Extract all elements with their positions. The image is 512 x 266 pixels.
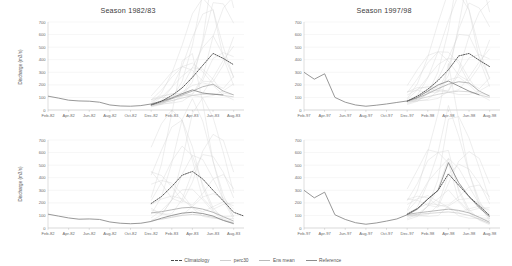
svg-text:Jun-97: Jun-97 bbox=[339, 113, 352, 118]
svg-text:0: 0 bbox=[299, 108, 302, 113]
panel-bottom-left: Discharge (m3/s) 0100200300400500600700F… bbox=[0, 134, 256, 246]
svg-text:0: 0 bbox=[299, 226, 302, 231]
plot-area: 0100200300400500600700Feb-97Apr-97Jun-97… bbox=[286, 136, 504, 248]
chart-title: Season 1982/83 bbox=[0, 6, 256, 15]
svg-text:Oct-97: Oct-97 bbox=[380, 231, 393, 236]
panel-top-left: Season 1982/83 Discharge (m3/s) 01002003… bbox=[0, 0, 256, 134]
svg-text:Jun-82: Jun-82 bbox=[83, 231, 96, 236]
svg-text:Aug-83: Aug-83 bbox=[227, 113, 241, 118]
svg-text:Aug-97: Aug-97 bbox=[359, 113, 373, 118]
legend-swatch-reference bbox=[306, 260, 317, 261]
svg-text:600: 600 bbox=[39, 32, 47, 37]
svg-text:Feb-97: Feb-97 bbox=[298, 231, 312, 236]
plot-area: 0100200300400500600700Feb-97Apr-97Jun-97… bbox=[286, 18, 504, 130]
svg-text:100: 100 bbox=[295, 213, 303, 218]
svg-text:400: 400 bbox=[295, 57, 303, 62]
svg-text:400: 400 bbox=[295, 175, 303, 180]
svg-text:Dec-97: Dec-97 bbox=[401, 231, 415, 236]
svg-text:700: 700 bbox=[295, 138, 303, 143]
svg-text:Feb-98: Feb-98 bbox=[421, 231, 435, 236]
svg-text:Jun-97: Jun-97 bbox=[339, 231, 352, 236]
svg-text:700: 700 bbox=[295, 20, 303, 25]
panel-bottom-right: 0100200300400500600700Feb-97Apr-97Jun-97… bbox=[256, 134, 512, 246]
legend: Climatology perc30 Ens mean Reference bbox=[0, 258, 512, 263]
svg-text:Feb-98: Feb-98 bbox=[421, 113, 435, 118]
chart-svg: 0100200300400500600700Feb-82Apr-82Jun-82… bbox=[30, 18, 248, 130]
y-axis-label: Discharge (m3/s) bbox=[18, 167, 23, 202]
svg-text:Apr-82: Apr-82 bbox=[62, 231, 75, 236]
svg-text:200: 200 bbox=[295, 82, 303, 87]
svg-text:0: 0 bbox=[43, 108, 46, 113]
svg-text:Dec-82: Dec-82 bbox=[145, 231, 159, 236]
svg-text:400: 400 bbox=[39, 175, 47, 180]
svg-text:100: 100 bbox=[39, 95, 47, 100]
svg-text:Oct-82: Oct-82 bbox=[124, 113, 137, 118]
svg-text:200: 200 bbox=[39, 82, 47, 87]
legend-label-reference: Reference bbox=[319, 258, 341, 263]
svg-text:700: 700 bbox=[39, 20, 47, 25]
svg-text:500: 500 bbox=[295, 163, 303, 168]
chart-svg: 0100200300400500600700Feb-97Apr-97Jun-97… bbox=[286, 18, 504, 130]
legend-item-climatology: Climatology bbox=[171, 258, 210, 263]
svg-text:Jun-98: Jun-98 bbox=[463, 231, 476, 236]
svg-text:Apr-98: Apr-98 bbox=[442, 231, 455, 236]
svg-text:Feb-82: Feb-82 bbox=[42, 113, 56, 118]
legend-item-ens-mean: Ens mean bbox=[259, 258, 294, 263]
y-axis-label: Discharge (m3/s) bbox=[18, 50, 23, 85]
svg-text:Feb-82: Feb-82 bbox=[42, 231, 56, 236]
svg-text:500: 500 bbox=[39, 45, 47, 50]
svg-text:Feb-83: Feb-83 bbox=[165, 231, 179, 236]
svg-text:200: 200 bbox=[39, 200, 47, 205]
chart-svg: 0100200300400500600700Feb-82Apr-82Jun-82… bbox=[30, 136, 248, 248]
legend-item-reference: Reference bbox=[306, 258, 342, 263]
svg-text:Apr-98: Apr-98 bbox=[442, 113, 455, 118]
svg-text:300: 300 bbox=[39, 70, 47, 75]
svg-text:400: 400 bbox=[39, 57, 47, 62]
svg-text:Jun-82: Jun-82 bbox=[83, 113, 96, 118]
svg-text:0: 0 bbox=[43, 226, 46, 231]
svg-text:Jun-83: Jun-83 bbox=[207, 113, 220, 118]
svg-text:Apr-83: Apr-83 bbox=[186, 113, 199, 118]
svg-text:Aug-83: Aug-83 bbox=[227, 231, 241, 236]
chart-svg: 0100200300400500600700Feb-97Apr-97Jun-97… bbox=[286, 136, 504, 248]
svg-text:Dec-97: Dec-97 bbox=[401, 113, 415, 118]
svg-text:Aug-98: Aug-98 bbox=[483, 231, 497, 236]
legend-swatch-climatology bbox=[171, 260, 182, 261]
svg-text:Apr-82: Apr-82 bbox=[62, 113, 75, 118]
svg-text:Apr-97: Apr-97 bbox=[318, 231, 331, 236]
svg-text:Apr-83: Apr-83 bbox=[186, 231, 199, 236]
legend-label-climatology: Climatology bbox=[184, 258, 209, 263]
legend-swatch-perc30 bbox=[220, 260, 231, 261]
svg-text:Dec-82: Dec-82 bbox=[145, 113, 159, 118]
svg-text:Aug-82: Aug-82 bbox=[103, 113, 117, 118]
svg-text:Feb-97: Feb-97 bbox=[298, 113, 312, 118]
svg-text:500: 500 bbox=[295, 45, 303, 50]
svg-text:Aug-82: Aug-82 bbox=[103, 231, 117, 236]
svg-text:Aug-98: Aug-98 bbox=[483, 113, 497, 118]
plot-area: 0100200300400500600700Feb-82Apr-82Jun-82… bbox=[30, 136, 248, 248]
svg-text:300: 300 bbox=[295, 188, 303, 193]
chart-title: Season 1997/98 bbox=[256, 6, 512, 15]
plot-area: 0100200300400500600700Feb-82Apr-82Jun-82… bbox=[30, 18, 248, 130]
legend-label-perc30: perc30 bbox=[234, 258, 249, 263]
legend-swatch-ens-mean bbox=[259, 260, 270, 261]
svg-text:Jun-98: Jun-98 bbox=[463, 113, 476, 118]
svg-text:600: 600 bbox=[295, 150, 303, 155]
legend-item-perc30: perc30 bbox=[220, 258, 248, 263]
svg-text:100: 100 bbox=[39, 213, 47, 218]
svg-text:Oct-82: Oct-82 bbox=[124, 231, 137, 236]
panel-top-right: Season 1997/98 Discharge (m3/s) 01002003… bbox=[256, 0, 512, 134]
svg-text:Oct-97: Oct-97 bbox=[380, 113, 393, 118]
svg-text:Aug-97: Aug-97 bbox=[359, 231, 373, 236]
svg-text:300: 300 bbox=[295, 70, 303, 75]
svg-text:200: 200 bbox=[295, 200, 303, 205]
svg-text:Jun-83: Jun-83 bbox=[207, 231, 220, 236]
svg-text:300: 300 bbox=[39, 188, 47, 193]
figure-grid: Season 1982/83 Discharge (m3/s) 01002003… bbox=[0, 0, 512, 266]
legend-label-ens-mean: Ens mean bbox=[273, 258, 295, 263]
svg-text:700: 700 bbox=[39, 138, 47, 143]
svg-text:500: 500 bbox=[39, 163, 47, 168]
svg-text:600: 600 bbox=[295, 32, 303, 37]
svg-text:600: 600 bbox=[39, 150, 47, 155]
svg-text:Apr-97: Apr-97 bbox=[318, 113, 331, 118]
